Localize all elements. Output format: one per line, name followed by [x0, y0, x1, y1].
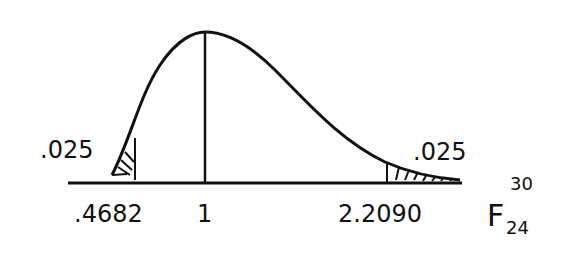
left-critical-value: .4682 [74, 200, 143, 228]
center-tick-label: 1 [197, 200, 212, 228]
df-denominator: 24 [506, 217, 529, 238]
right-tail-area-label: .025 [413, 138, 466, 166]
left-tail-shading [112, 138, 135, 180]
density-curve [112, 32, 460, 180]
f-distribution-diagram: .025 .025 .4682 1 2.2090 F 30 24 [0, 0, 571, 260]
f-symbol: F [487, 198, 504, 233]
right-critical-value: 2.2090 [338, 200, 422, 228]
left-tail-area-label: .025 [40, 136, 93, 164]
df-numerator: 30 [510, 173, 533, 194]
